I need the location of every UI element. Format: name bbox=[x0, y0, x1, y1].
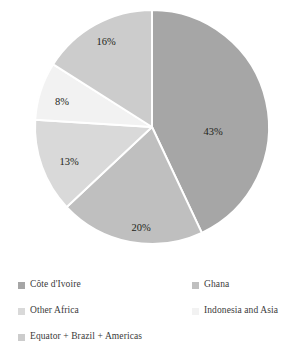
pie-slice-value-label: 16% bbox=[96, 36, 116, 47]
legend-swatch-icon bbox=[192, 308, 199, 315]
legend-label: Indonesia and Asia bbox=[204, 306, 278, 316]
legend-swatch-icon bbox=[18, 282, 25, 289]
pie-slice-value-label: 43% bbox=[203, 126, 223, 137]
legend-swatch-icon bbox=[18, 308, 25, 315]
legend-item-ghana[interactable]: Ghana bbox=[192, 272, 229, 298]
legend-label: Côte d'Ivoire bbox=[30, 280, 81, 290]
pie-chart-figure: 43%20%13%8%16% Côte d'Ivoire Ghana Other… bbox=[0, 0, 298, 356]
legend-item-equator-brazil-americas[interactable]: Equator + Brazil + Americas bbox=[18, 324, 142, 350]
legend-row: Côte d'Ivoire Ghana bbox=[6, 272, 292, 298]
legend-row: Equator + Brazil + Americas bbox=[6, 324, 292, 350]
legend-label: Equator + Brazil + Americas bbox=[30, 332, 142, 342]
legend-label: Other Africa bbox=[30, 306, 79, 316]
pie-chart-svg: 43%20%13%8%16% bbox=[0, 0, 298, 268]
pie-slice-value-label: 13% bbox=[59, 156, 79, 167]
legend-swatch-icon bbox=[192, 282, 199, 289]
chart-legend: Côte d'Ivoire Ghana Other Africa Indones… bbox=[0, 272, 298, 356]
legend-row: Other Africa Indonesia and Asia bbox=[6, 298, 292, 324]
pie-slice-value-label: 20% bbox=[131, 222, 151, 233]
legend-label: Ghana bbox=[204, 280, 229, 290]
legend-swatch-icon bbox=[18, 334, 25, 341]
legend-item-indonesia-and-asia[interactable]: Indonesia and Asia bbox=[192, 298, 278, 324]
pie-chart-plot-area: 43%20%13%8%16% bbox=[0, 0, 298, 268]
pie-slice-group bbox=[35, 10, 269, 244]
legend-item-other-africa[interactable]: Other Africa bbox=[18, 298, 79, 324]
legend-item-cote-divoire[interactable]: Côte d'Ivoire bbox=[18, 272, 81, 298]
pie-slice-value-label: 8% bbox=[55, 96, 69, 107]
